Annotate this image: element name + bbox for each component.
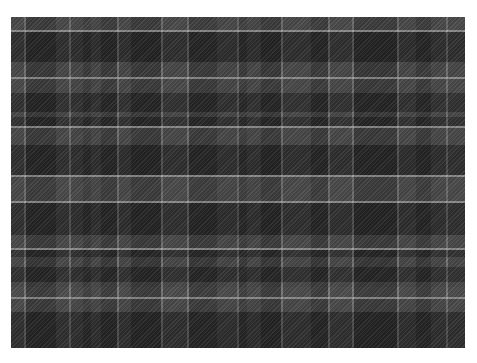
horizontal-band (11, 79, 465, 93)
horizontal-band (11, 203, 465, 235)
horizontal-band (11, 257, 465, 267)
horizontal-band (11, 128, 465, 145)
horizontal-band (11, 312, 465, 348)
horizontal-band (11, 145, 465, 175)
horizontal-band (11, 267, 465, 282)
horizontal-band (11, 93, 465, 112)
horizontal-band (11, 117, 465, 126)
horizontal-band (11, 177, 465, 201)
horizontal-band (11, 287, 465, 297)
plaid-fabric (11, 17, 465, 348)
horizontal-band (11, 32, 465, 62)
horizontal-band (11, 62, 465, 77)
horizontal-band (11, 250, 465, 257)
horizontal-stripes (11, 17, 465, 348)
horizontal-band (11, 299, 465, 312)
horizontal-band (11, 17, 465, 30)
horizontal-band (11, 235, 465, 248)
